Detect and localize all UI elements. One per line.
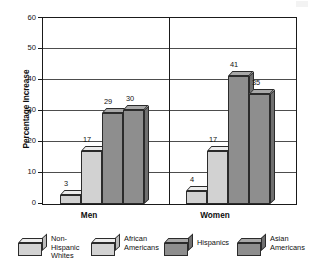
y-tick-label-30: 30	[10, 106, 36, 114]
cube-front-face	[18, 243, 42, 256]
legend-cube-icon	[237, 238, 261, 252]
legend-item-asian-americans[interactable]: Asian Americans	[237, 233, 310, 267]
legend-item-hispanics[interactable]: Hispanics	[164, 233, 239, 267]
bar-front-face	[228, 76, 249, 204]
legend: Non- Hispanic Whites African Americans H…	[18, 233, 308, 267]
bar-women-african-americans	[207, 151, 228, 204]
bar-men-african-americans	[81, 151, 102, 204]
value-label-women-non-hispanic-whites: 4	[182, 175, 202, 184]
x-axis-label-men: Men	[54, 211, 124, 220]
cube-side-face	[188, 233, 193, 251]
y-tick-label-50: 50	[10, 44, 36, 52]
bar-front-face	[249, 94, 270, 204]
value-label-women-african-americans: 17	[203, 135, 223, 144]
bar-front-face	[186, 191, 207, 204]
cube-side-face	[261, 233, 266, 251]
bar-women-non-hispanic-whites	[186, 191, 207, 204]
legend-label: Asian Americans	[270, 235, 310, 252]
bar-front-face	[81, 151, 102, 204]
cube-front-face	[237, 243, 261, 256]
cube-front-face	[164, 243, 188, 256]
value-label-men-hispanics: 29	[98, 97, 118, 106]
bar-women-hispanics	[228, 76, 249, 204]
y-tick-label-40: 40	[10, 75, 36, 83]
y-tick-label-10: 10	[10, 168, 36, 176]
y-tick-label-20: 20	[10, 137, 36, 145]
value-label-men-african-americans: 17	[77, 135, 97, 144]
y-tick-label-0: 0	[10, 199, 36, 207]
bar-front-face	[102, 113, 123, 204]
bar-men-hispanics	[102, 113, 123, 204]
value-label-women-asian-americans: 35	[246, 78, 266, 87]
legend-cube-icon	[18, 238, 42, 252]
plot-area	[42, 17, 297, 205]
bar-women-asian-americans	[249, 94, 270, 204]
cube-front-face	[91, 243, 115, 256]
legend-cube-icon	[164, 238, 188, 252]
value-label-men-asian-americans: 30	[120, 94, 140, 103]
value-label-women-hispanics: 41	[224, 60, 244, 69]
bar-side-face	[144, 105, 149, 204]
x-axis-label-women: Women	[180, 211, 250, 220]
cube-side-face	[115, 233, 120, 251]
group-divider	[169, 18, 170, 204]
bar-men-non-hispanic-whites	[60, 195, 81, 204]
scan-artifact	[296, 1, 308, 7]
y-tick-label-60: 60	[10, 14, 36, 22]
value-label-men-non-hispanic-whites: 3	[56, 179, 76, 188]
legend-cube-icon	[91, 238, 115, 252]
cube-side-face	[42, 233, 47, 251]
bar-chart-figure: Percentage Increase 60 50 40 30 20 10 0	[0, 0, 310, 269]
bar-men-asian-americans	[123, 110, 144, 204]
bar-front-face	[123, 110, 144, 204]
bar-side-face	[270, 89, 275, 204]
bar-front-face	[207, 151, 228, 204]
bar-front-face	[60, 195, 81, 204]
